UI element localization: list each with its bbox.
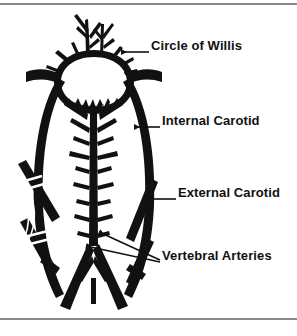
top-rule [0,3,297,5]
label-circle-of-willis: Circle of Willis [151,39,242,53]
bottom-rule [0,318,297,320]
figure-page: Circle of Willis Internal Carotid Extern… [0,0,297,336]
cerebral-branches-icon [74,14,115,56]
vertebral-arteries [60,244,128,310]
vessel-artwork [14,14,162,310]
basilar-artery [64,100,123,246]
anatomical-illustration [0,6,297,316]
label-external-carotid: External Carotid [178,186,280,200]
label-internal-carotid: Internal Carotid [162,114,260,128]
label-vertebral-arteries: Vertebral Arteries [162,249,272,263]
lateral-ring-wings [26,69,162,84]
